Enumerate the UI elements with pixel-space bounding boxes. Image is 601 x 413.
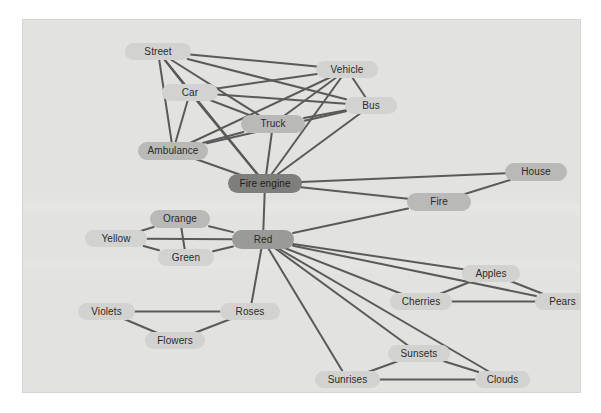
graph-node-label: Cherries — [402, 297, 441, 307]
graph-node-green[interactable]: Green — [158, 249, 214, 266]
graph-node-cherries[interactable]: Cherries — [390, 293, 452, 310]
graph-node-red[interactable]: Red — [232, 230, 294, 249]
graph-node-label: Orange — [163, 214, 197, 224]
graph-node-apples[interactable]: Apples — [462, 265, 520, 282]
graph-node-flowers[interactable]: Flowers — [145, 332, 205, 349]
graph-node-label: Bus — [362, 101, 380, 111]
graph-node-fire[interactable]: Fire — [407, 193, 471, 211]
graph-node-bus[interactable]: Bus — [345, 97, 397, 114]
graph-node-label: Fire engine — [239, 179, 290, 189]
graph-node-vehicle[interactable]: Vehicle — [316, 61, 378, 78]
graph-node-label: Vehicle — [331, 65, 364, 75]
graph-node-label: Yellow — [101, 234, 130, 244]
graph-node-label: Apples — [475, 269, 506, 279]
graph-node-car[interactable]: Car — [162, 84, 218, 101]
graph-node-yellow[interactable]: Yellow — [85, 230, 147, 247]
graph-node-label: Clouds — [487, 375, 519, 385]
graph-node-label: Flowers — [157, 336, 193, 346]
graph-node-label: Violets — [91, 307, 122, 317]
graph-node-fire-engine[interactable]: Fire engine — [228, 174, 302, 193]
graph-node-label: Sunsets — [401, 349, 438, 359]
network-graph-figure: StreetVehicleCarBusTruckAmbulanceFire en… — [0, 0, 601, 413]
graph-node-layer: StreetVehicleCarBusTruckAmbulanceFire en… — [23, 20, 581, 393]
graph-node-label: House — [521, 167, 550, 177]
graph-node-violets[interactable]: Violets — [78, 303, 135, 320]
graph-node-ambulance[interactable]: Ambulance — [138, 142, 208, 160]
graph-node-label: Truck — [260, 119, 285, 129]
graph-node-clouds[interactable]: Clouds — [475, 371, 530, 388]
graph-node-sunrises[interactable]: Sunrises — [315, 371, 380, 388]
graph-node-label: Car — [182, 88, 198, 98]
graph-node-street[interactable]: Street — [125, 43, 191, 60]
graph-node-label: Roses — [236, 307, 265, 317]
graph-node-orange[interactable]: Orange — [150, 210, 210, 228]
graph-node-label: Pears — [549, 297, 576, 307]
graph-node-label: Green — [172, 253, 200, 263]
graph-node-house[interactable]: House — [505, 163, 567, 181]
graph-node-roses[interactable]: Roses — [220, 303, 280, 320]
graph-node-label: Fire — [430, 197, 448, 207]
graph-canvas[interactable]: StreetVehicleCarBusTruckAmbulanceFire en… — [22, 19, 581, 393]
graph-node-pears[interactable]: Pears — [535, 293, 581, 310]
graph-node-sunsets[interactable]: Sunsets — [388, 345, 450, 362]
graph-node-label: Red — [254, 235, 273, 245]
graph-node-truck[interactable]: Truck — [241, 115, 305, 133]
graph-node-label: Street — [144, 47, 171, 57]
graph-node-label: Ambulance — [148, 146, 199, 156]
graph-node-label: Sunrises — [328, 375, 368, 385]
